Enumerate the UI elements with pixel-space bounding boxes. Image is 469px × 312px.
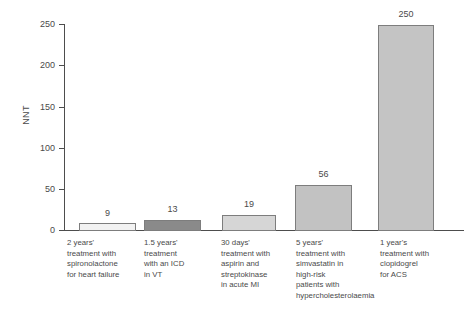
y-tick-label-200: 200: [0, 61, 55, 70]
caption-line: 1 year's: [380, 238, 460, 249]
bar-rect[interactable]: [144, 220, 201, 231]
caption-line: high-risk: [296, 270, 382, 281]
caption-line: 30 days': [221, 238, 293, 249]
x-caption-simvastatin: 5 years' treatment with simvastatin in h…: [296, 238, 382, 302]
nnt-bar-chart: NNT 250 200 150 100 50 0 9 13 19 56: [0, 0, 469, 312]
bar-value-label: 19: [222, 200, 276, 209]
bar-group-clopidogrel: 250: [378, 24, 434, 231]
bar-group-simvastatin: 56: [295, 24, 352, 231]
caption-line: hypercholesterolaemia: [296, 291, 382, 302]
caption-line: treatment with: [380, 249, 460, 260]
bar-value-label: 56: [295, 170, 352, 179]
bar-value-label: 250: [378, 10, 434, 19]
x-axis-captions: 2 years' treatment with spironolactone f…: [64, 238, 469, 312]
caption-line: treatment with: [67, 249, 139, 260]
bar-value-label: 13: [144, 205, 201, 214]
caption-line: in acute MI: [221, 280, 293, 291]
x-caption-icd: 1.5 years' treatment with an ICD in VT: [144, 238, 214, 280]
bar-group-aspirin-streptokinase: 19: [222, 24, 276, 231]
y-tick-label-100: 100: [0, 144, 55, 153]
x-caption-aspirin-streptokinase: 30 days' treatment with aspirin and stre…: [221, 238, 293, 291]
caption-line: treatment: [144, 249, 214, 260]
caption-line: spironolactone: [67, 259, 139, 270]
bar-rect[interactable]: [295, 185, 352, 231]
caption-line: in VT: [144, 270, 214, 281]
caption-line: aspirin and: [221, 259, 293, 270]
caption-line: treatment with: [221, 249, 293, 260]
y-axis-title: NNT: [21, 95, 31, 135]
caption-line: simvastatin in: [296, 259, 382, 270]
y-tick-label-50: 50: [0, 185, 55, 194]
caption-line: for heart failure: [67, 270, 139, 281]
caption-line: patients with: [296, 280, 382, 291]
bar-group-icd: 13: [144, 24, 201, 231]
caption-line: 1.5 years': [144, 238, 214, 249]
bar-rect[interactable]: [378, 25, 434, 231]
x-caption-clopidogrel: 1 year's treatment with clopidogrel for …: [380, 238, 460, 280]
caption-line: clopidogrel: [380, 259, 460, 270]
caption-line: for ACS: [380, 270, 460, 281]
bar-group-spironolactone: 9: [79, 24, 136, 231]
caption-line: streptokinase: [221, 270, 293, 281]
bar-rect[interactable]: [222, 215, 276, 231]
caption-line: treatment with: [296, 249, 382, 260]
bar-value-label: 9: [79, 209, 136, 218]
y-tick-label-150: 150: [0, 103, 55, 112]
plot-area: 9 13 19 56 250: [64, 24, 464, 231]
bar-rect[interactable]: [79, 223, 136, 231]
caption-line: with an ICD: [144, 259, 214, 270]
caption-line: 5 years': [296, 238, 382, 249]
caption-line: 2 years': [67, 238, 139, 249]
y-tick-label-250: 250: [0, 20, 55, 29]
y-tick-label-0: 0: [0, 226, 55, 235]
x-caption-spironolactone: 2 years' treatment with spironolactone f…: [67, 238, 139, 280]
